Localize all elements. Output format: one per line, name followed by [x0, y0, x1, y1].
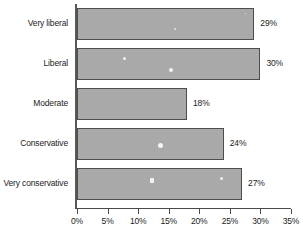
x-axis-tick-label: 35% [283, 216, 299, 226]
bar-row: Moderate 18% [0, 86, 303, 124]
bar-row: Conservative 24% [0, 126, 303, 164]
x-axis-tick-mark [230, 209, 231, 214]
scan-speck [169, 68, 173, 72]
scan-speck [123, 57, 126, 60]
bar-value-label: 29% [260, 18, 277, 28]
category-label: Very liberal [0, 18, 68, 28]
x-axis-tick-label: 20% [191, 216, 207, 226]
x-axis-tick-mark [199, 209, 200, 214]
bar-value-label: 30% [266, 58, 283, 68]
category-label: Liberal [0, 58, 68, 68]
bar [77, 168, 242, 200]
bar [77, 48, 260, 80]
x-axis-tick-mark [291, 209, 292, 214]
x-axis-tick-label: 30% [252, 216, 268, 226]
x-axis-tick-mark [169, 209, 170, 214]
x-axis-tick-mark [108, 209, 109, 214]
plot-area: Very liberal 29% Liberal 30% Moderate 18… [0, 0, 303, 235]
bar-value-label: 24% [230, 138, 247, 148]
x-axis-tick-mark [77, 209, 78, 214]
scan-speck [220, 177, 223, 180]
x-axis-tick-label: 10% [130, 216, 146, 226]
x-axis-tick-label: 25% [222, 216, 238, 226]
x-axis-tick-label: 5% [102, 216, 114, 226]
scan-speck [158, 143, 163, 148]
scan-speck [150, 178, 154, 183]
category-label: Moderate [0, 98, 68, 108]
bar [77, 88, 187, 120]
x-axis-tick-mark [260, 209, 261, 214]
bar-row: Liberal 30% [0, 46, 303, 84]
scan-speck [174, 28, 176, 30]
scan-speck [245, 13, 246, 14]
bar [77, 8, 254, 40]
category-label: Very conservative [0, 178, 68, 188]
bar-row: Very conservative 27% [0, 166, 303, 204]
x-axis-tick-label: 15% [160, 216, 176, 226]
bar-value-label: 27% [248, 178, 265, 188]
x-axis-tick-mark [138, 209, 139, 214]
x-axis-tick-label: 0% [71, 216, 83, 226]
bar [77, 128, 224, 160]
bar-chart: Very liberal 29% Liberal 30% Moderate 18… [0, 0, 303, 235]
bar-value-label: 18% [193, 98, 210, 108]
bar-row: Very liberal 29% [0, 6, 303, 44]
category-label: Conservative [0, 138, 68, 148]
